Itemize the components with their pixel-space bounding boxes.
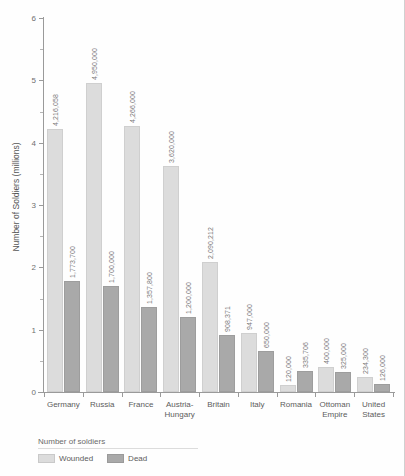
bar-dead[interactable]: 1,700,000 bbox=[103, 286, 119, 392]
bar-dead[interactable]: 335,706 bbox=[297, 371, 313, 392]
chart-page: 0123456 Number of Soldiers (millions) 4,… bbox=[0, 0, 405, 476]
bar-dead[interactable]: 908,371 bbox=[219, 335, 235, 392]
bar-wounded[interactable]: 3,620,000 bbox=[163, 166, 179, 392]
x-tick bbox=[122, 392, 123, 397]
x-tick bbox=[315, 392, 316, 397]
legend-items: Wounded Dead bbox=[38, 454, 218, 463]
bar-value-label: 1,773,700 bbox=[69, 246, 76, 278]
legend-swatch-wounded-icon bbox=[38, 454, 55, 463]
x-axis-label: Germany bbox=[44, 400, 83, 410]
x-axis-line bbox=[38, 392, 395, 393]
bar-wounded[interactable]: 234,300 bbox=[357, 377, 373, 392]
bar-value-label: 126,000 bbox=[379, 355, 386, 381]
bar-group: 4,266,0001,357,800 bbox=[122, 18, 161, 392]
x-tick bbox=[354, 392, 355, 397]
bar-dead[interactable]: 1,357,800 bbox=[141, 307, 157, 392]
bar-wounded[interactable]: 947,000 bbox=[241, 333, 257, 392]
bar-dead[interactable]: 1,773,700 bbox=[64, 281, 80, 392]
bar-value-label: 234,300 bbox=[362, 348, 369, 374]
legend-title: Number of soldiers bbox=[38, 437, 198, 449]
bar-value-label: 650,000 bbox=[263, 322, 270, 348]
x-axis-label: Russia bbox=[83, 400, 122, 410]
bar-wounded[interactable]: 120,000 bbox=[280, 385, 296, 392]
x-tick bbox=[199, 392, 200, 397]
bar-value-label: 4,950,000 bbox=[91, 48, 98, 80]
y-tick-label: 2 bbox=[32, 263, 36, 272]
legend-swatch-dead-icon bbox=[107, 454, 124, 463]
x-tick bbox=[160, 392, 161, 397]
legend-item-dead[interactable]: Dead bbox=[107, 454, 147, 463]
legend: Number of soldiers Wounded Dead bbox=[38, 437, 218, 463]
x-axis-label: Austria-Hungary bbox=[160, 400, 199, 420]
legend-item-wounded[interactable]: Wounded bbox=[38, 454, 93, 463]
y-tick-label: 5 bbox=[32, 76, 36, 85]
bar-dead[interactable]: 325,000 bbox=[335, 372, 351, 392]
bar-value-label: 908,371 bbox=[224, 306, 231, 332]
legend-label-dead: Dead bbox=[128, 454, 147, 463]
bar-group: 234,300126,000 bbox=[354, 18, 393, 392]
bar-group: 120,000335,706 bbox=[277, 18, 316, 392]
x-axis-label: OttomanEmpire bbox=[315, 400, 354, 420]
x-axis-label: Romania bbox=[277, 400, 316, 410]
x-axis-label: Britain bbox=[199, 400, 238, 410]
bar-dead[interactable]: 1,200,000 bbox=[180, 317, 196, 392]
y-tick-label: 4 bbox=[32, 138, 36, 147]
bar-value-label: 2,090,212 bbox=[207, 227, 214, 259]
bar-group: 400,000325,000 bbox=[315, 18, 354, 392]
x-axis-label: Italy bbox=[238, 400, 277, 410]
y-axis-title: Number of Soldiers (millions) bbox=[11, 117, 21, 277]
bar-group: 2,090,212908,371 bbox=[199, 18, 238, 392]
bar-value-label: 325,000 bbox=[340, 343, 347, 369]
bar-value-label: 1,700,000 bbox=[108, 251, 115, 283]
bar-value-label: 400,000 bbox=[323, 338, 330, 364]
bar-value-label: 120,000 bbox=[285, 356, 292, 382]
y-tick-label: 1 bbox=[32, 325, 36, 334]
plot-area: 4,216,0581,773,7004,950,0001,700,0004,26… bbox=[44, 18, 393, 392]
bar-dead[interactable]: 650,000 bbox=[258, 351, 274, 392]
bar-dead[interactable]: 126,000 bbox=[374, 384, 390, 392]
bar-value-label: 4,266,000 bbox=[129, 91, 136, 123]
y-axis-ticks: 0123456 bbox=[0, 0, 44, 476]
bar-wounded[interactable]: 4,266,000 bbox=[124, 126, 140, 392]
x-axis-label: UnitedStates bbox=[354, 400, 393, 420]
bar-value-label: 1,357,800 bbox=[146, 272, 153, 304]
bar-group: 947,000650,000 bbox=[238, 18, 277, 392]
bar-value-label: 335,706 bbox=[302, 342, 309, 368]
bar-wounded[interactable]: 4,950,000 bbox=[86, 83, 102, 392]
y-tick-label: 0 bbox=[32, 388, 36, 397]
bar-wounded[interactable]: 400,000 bbox=[318, 367, 334, 392]
bar-value-label: 1,200,000 bbox=[185, 282, 192, 314]
bar-group: 4,950,0001,700,000 bbox=[83, 18, 122, 392]
bar-wounded[interactable]: 2,090,212 bbox=[202, 262, 218, 392]
bar-group: 3,620,0001,200,000 bbox=[160, 18, 199, 392]
x-tick bbox=[393, 392, 394, 397]
y-tick-label: 3 bbox=[32, 201, 36, 210]
x-tick bbox=[44, 392, 45, 397]
bar-value-label: 3,620,000 bbox=[168, 131, 175, 163]
x-tick bbox=[238, 392, 239, 397]
x-tick bbox=[83, 392, 84, 397]
x-tick bbox=[277, 392, 278, 397]
bar-value-label: 4,216,058 bbox=[52, 94, 59, 126]
bar-group: 4,216,0581,773,700 bbox=[44, 18, 83, 392]
legend-label-wounded: Wounded bbox=[59, 454, 93, 463]
y-tick-label: 6 bbox=[32, 14, 36, 23]
x-axis-label: France bbox=[122, 400, 161, 410]
bar-value-label: 947,000 bbox=[246, 304, 253, 330]
bar-wounded[interactable]: 4,216,058 bbox=[47, 129, 63, 392]
